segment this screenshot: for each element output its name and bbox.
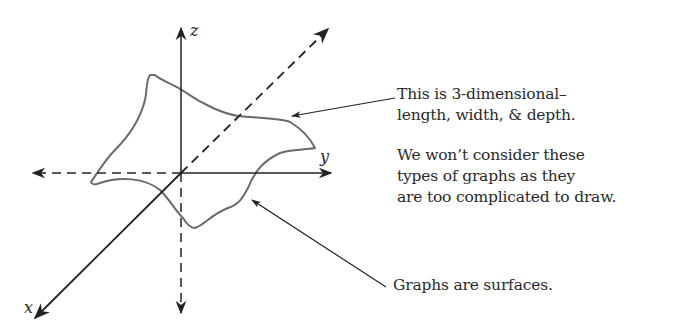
note-too-complicated-line-1: We won’t consider these xyxy=(397,145,616,166)
note-three-dimensional: This is 3-dimensional– length, width, & … xyxy=(397,84,576,126)
note-too-complicated-line-3: are too complicated to draw. xyxy=(397,187,616,208)
note-graphs-are-surfaces: Graphs are surfaces. xyxy=(393,275,553,296)
note-three-dimensional-line-2: length, width, & depth. xyxy=(397,105,576,126)
annotation-arrow-surfaces xyxy=(252,200,386,287)
3d-coordinate-diagram: z y x This is 3-dimensional– length, wid… xyxy=(0,0,683,336)
y-axis-label: y xyxy=(320,149,329,165)
note-too-complicated-line-2: types of graphs as they xyxy=(397,166,616,187)
negative-x-axis xyxy=(181,29,328,173)
note-too-complicated: We won’t consider these types of graphs … xyxy=(397,145,616,208)
x-axis-label: x xyxy=(24,300,33,316)
note-graphs-are-surfaces-line-1: Graphs are surfaces. xyxy=(393,275,553,296)
x-axis xyxy=(35,173,181,318)
z-axis-label: z xyxy=(190,23,198,39)
annotation-arrow-three-d xyxy=(292,98,395,116)
note-three-dimensional-line-1: This is 3-dimensional– xyxy=(397,84,576,105)
